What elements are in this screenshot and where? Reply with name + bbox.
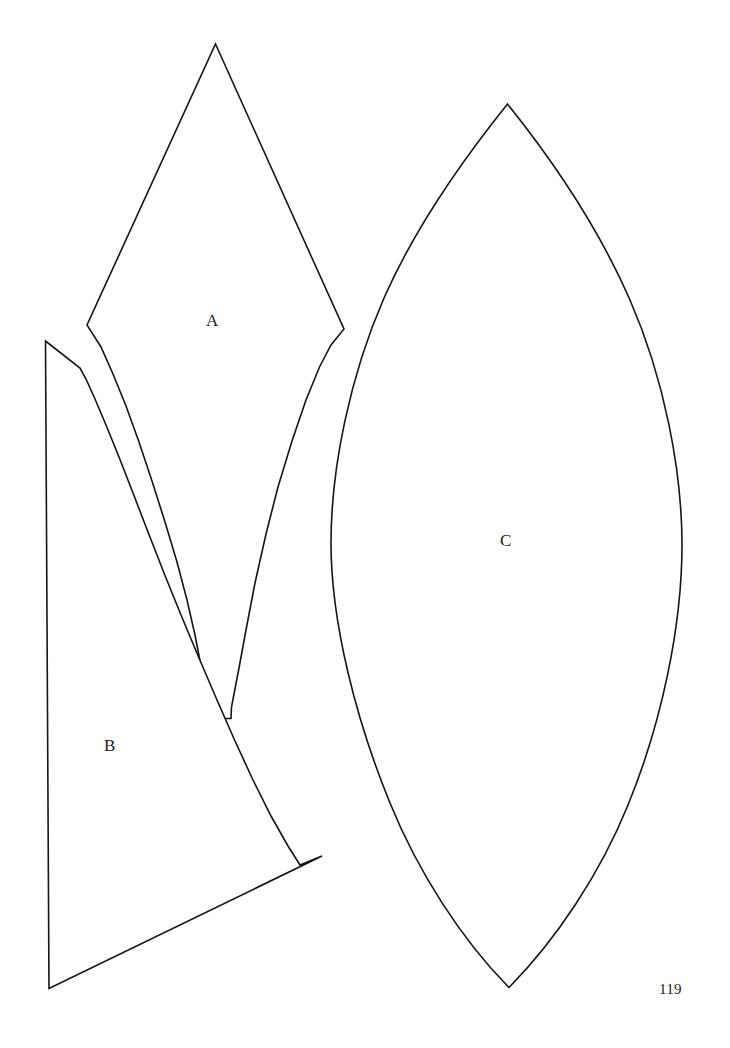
page-number: 119: [659, 982, 682, 997]
pattern-sheet-page: A B C 119: [0, 0, 730, 1048]
pattern-diagram: [0, 0, 730, 1048]
pattern-piece-c-label: C: [500, 532, 512, 549]
pattern-piece-a-label: A: [206, 312, 219, 329]
pattern-piece-b-label: B: [104, 737, 116, 754]
